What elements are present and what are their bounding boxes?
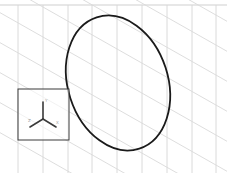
sketch-viewport[interactable]: Y X Z	[0, 0, 227, 173]
triad-y-label: Y	[44, 98, 48, 103]
grid-diagonal-lines	[0, 0, 227, 173]
view-triad[interactable]: Y X Z	[18, 89, 69, 140]
triad-x-label: X	[56, 120, 59, 125]
triad-z-label: Z	[28, 118, 31, 123]
sketch-canvas[interactable]: Y X Z	[0, 0, 227, 173]
